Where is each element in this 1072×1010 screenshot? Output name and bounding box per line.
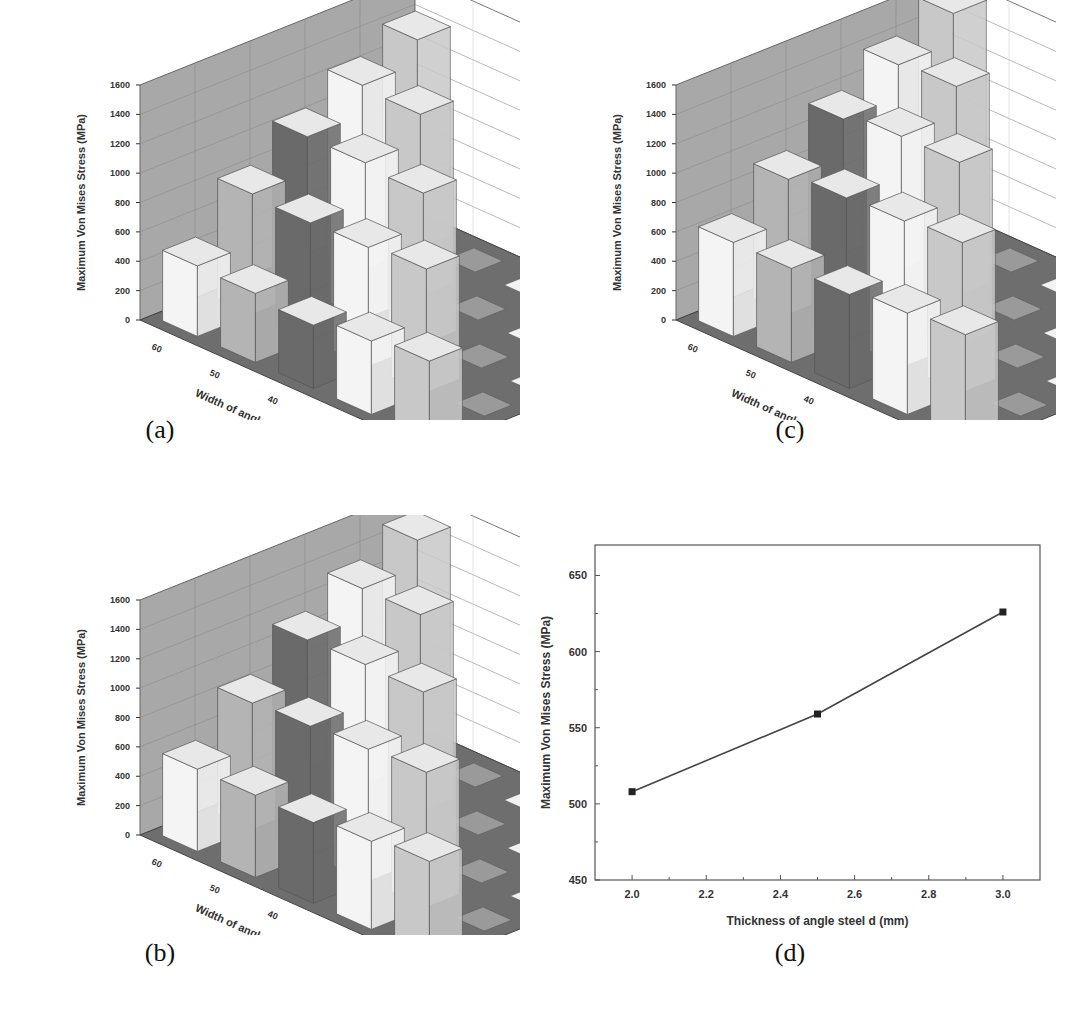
bar (337, 312, 405, 414)
bar (163, 740, 231, 851)
svg-text:0: 0 (661, 315, 666, 325)
svg-text:800: 800 (651, 198, 666, 208)
svg-text:2.2: 2.2 (699, 888, 714, 900)
z-axis: 02004006008001000120014001600Maximum Von… (611, 80, 676, 325)
svg-text:600: 600 (115, 742, 130, 752)
caption-c: (c) (760, 415, 820, 445)
svg-text:1400: 1400 (646, 109, 666, 119)
svg-text:600: 600 (115, 227, 130, 237)
bar (873, 284, 941, 414)
svg-text:2.0: 2.0 (624, 888, 639, 900)
svg-text:1400: 1400 (110, 624, 130, 634)
svg-text:40: 40 (266, 394, 279, 407)
bar (337, 813, 405, 930)
svg-text:1600: 1600 (110, 595, 130, 605)
svg-text:2.4: 2.4 (773, 888, 789, 900)
bar (699, 214, 767, 337)
data-point (999, 609, 1006, 616)
bar (931, 306, 999, 420)
bar (815, 266, 883, 389)
caption-d: (d) (760, 938, 820, 968)
chart-b-3d-bar: 02004006008001000120014001600Maximum Von… (20, 515, 520, 935)
svg-text:200: 200 (115, 286, 130, 296)
svg-text:200: 200 (115, 801, 130, 811)
svg-text:50: 50 (208, 368, 221, 381)
bar (221, 766, 289, 877)
svg-text:60: 60 (150, 857, 163, 870)
svg-text:Maximum Von Mises Stress (MPa): Maximum Von Mises Stress (MPa) (611, 114, 623, 291)
svg-text:1600: 1600 (646, 80, 666, 90)
chart-c-3d-bar: 02004006008001000120014001600Maximum Von… (556, 0, 1056, 420)
bar (163, 237, 231, 336)
svg-text:400: 400 (115, 771, 130, 781)
data-point (814, 711, 821, 718)
data-point (629, 788, 636, 795)
chart-d-line: 2.02.22.42.62.83.0450500550600650Thickne… (530, 530, 1050, 930)
bar (279, 296, 347, 388)
svg-text:800: 800 (115, 713, 130, 723)
svg-text:1400: 1400 (110, 109, 130, 119)
svg-text:800: 800 (115, 198, 130, 208)
caption-b: (b) (130, 938, 190, 968)
bar (395, 833, 463, 935)
svg-text:60: 60 (686, 342, 699, 355)
svg-text:450: 450 (569, 874, 587, 886)
svg-text:400: 400 (115, 256, 130, 266)
bar (279, 794, 347, 904)
svg-text:1000: 1000 (110, 168, 130, 178)
svg-text:550: 550 (569, 722, 587, 734)
svg-text:200: 200 (651, 286, 666, 296)
svg-text:600: 600 (569, 646, 587, 658)
svg-text:2.6: 2.6 (847, 888, 862, 900)
z-axis: 02004006008001000120014001600Maximum Von… (75, 80, 140, 325)
svg-text:Maximum Von Mises Stress (MPa): Maximum Von Mises Stress (MPa) (75, 629, 87, 806)
bar (395, 332, 463, 420)
chart-a-3d-bar: 02004006008001000120014001600Maximum Von… (20, 0, 520, 420)
svg-text:2.8: 2.8 (921, 888, 936, 900)
svg-text:0: 0 (125, 830, 130, 840)
svg-text:1200: 1200 (646, 139, 666, 149)
y-axis-label: Maximum Von Mises Stress (MPa) (539, 616, 553, 809)
bar (757, 240, 825, 363)
svg-text:400: 400 (651, 256, 666, 266)
caption-a: (a) (130, 415, 190, 445)
svg-text:650: 650 (569, 569, 587, 581)
svg-text:60: 60 (150, 342, 163, 355)
bar (221, 265, 289, 363)
svg-text:1000: 1000 (646, 168, 666, 178)
svg-text:40: 40 (266, 909, 279, 922)
svg-text:1600: 1600 (110, 80, 130, 90)
z-axis: 02004006008001000120014001600Maximum Von… (75, 595, 140, 840)
x-axis-label: Thickness of angle steel d (mm) (726, 914, 908, 928)
svg-text:1000: 1000 (110, 683, 130, 693)
svg-text:50: 50 (744, 368, 757, 381)
svg-text:50: 50 (208, 883, 221, 896)
svg-text:Maximum Von Mises Stress (MPa): Maximum Von Mises Stress (MPa) (75, 114, 87, 291)
svg-text:1200: 1200 (110, 654, 130, 664)
svg-text:0: 0 (125, 315, 130, 325)
svg-text:500: 500 (569, 798, 587, 810)
svg-text:1200: 1200 (110, 139, 130, 149)
svg-text:40: 40 (802, 394, 815, 407)
svg-text:600: 600 (651, 227, 666, 237)
svg-text:3.0: 3.0 (995, 888, 1010, 900)
